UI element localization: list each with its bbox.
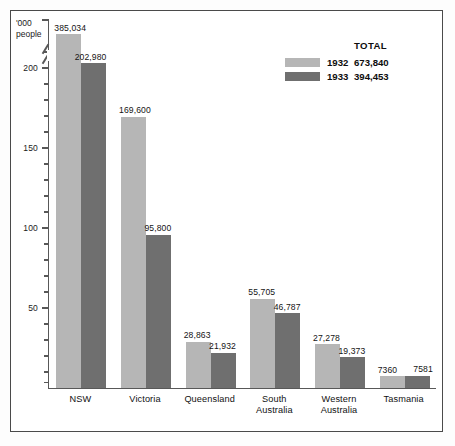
bar-1932-south-australia (250, 299, 275, 388)
legend-year-1933: 1933 (327, 71, 348, 82)
bar-1933-nsw (81, 63, 106, 388)
axis-break-gap (47, 50, 51, 61)
y-tick-major-100 (42, 227, 49, 228)
legend-total-1932: 673,840 (354, 57, 389, 68)
bar-value-label-1933-victoria: 95,800 (144, 223, 171, 233)
category-label-line: Queensland (177, 394, 242, 405)
y-tick-minor-110 (44, 211, 49, 212)
bar-1933-western-australia (340, 357, 365, 388)
y-tick-minor-160 (44, 131, 49, 132)
y-tick-minor-130 (44, 179, 49, 180)
bar-value-label-1932-queensland: 28,863 (184, 330, 211, 340)
legend-swatch-1933 (285, 72, 320, 81)
category-label-south-australia: SouthAustralia (242, 394, 307, 415)
legend-swatch-1932 (285, 58, 320, 67)
x-axis-line (48, 388, 436, 389)
bar-1933-south-australia (275, 313, 300, 388)
y-tick-minor-base (44, 382, 49, 383)
bar-1932-western-australia (315, 344, 340, 388)
y-tick-major-150 (42, 147, 49, 148)
category-label-line: Australia (307, 405, 372, 416)
y-tick-minor-80 (44, 259, 49, 260)
y-tick-minor-10 (44, 371, 49, 372)
bar-value-label-1932-victoria: 169,600 (119, 105, 151, 115)
y-tick-minor-190 (44, 83, 49, 84)
y-tick-minor-30 (44, 339, 49, 340)
category-label-line: South (242, 394, 307, 405)
y-tick-label-150: 150 (10, 143, 38, 153)
y-tick-minor-70 (44, 275, 49, 276)
category-label-tasmania: Tasmania (371, 394, 436, 405)
y-axis-title-line1: '000 (16, 18, 42, 29)
y-axis-title: '000 people (16, 18, 42, 39)
category-label-line: Tasmania (371, 394, 436, 405)
y-tick-minor-170 (44, 115, 49, 116)
bar-1932-victoria (121, 117, 146, 388)
category-label-line: Western (307, 394, 372, 405)
category-label-queensland: Queensland (177, 394, 242, 405)
legend-total-header: TOTAL (354, 40, 387, 51)
category-label-western-australia: WesternAustralia (307, 394, 372, 415)
y-tick-label-50: 50 (10, 303, 38, 313)
category-label-line: Victoria (113, 394, 178, 405)
bar-value-label-1933-nsw: 202,980 (75, 52, 107, 62)
category-label-nsw: NSW (48, 394, 113, 405)
bar-1933-victoria (146, 235, 171, 388)
category-label-victoria: Victoria (113, 394, 178, 405)
y-axis-title-line2: people (16, 29, 42, 40)
y-tick-minor-140 (44, 163, 49, 164)
category-label-line: Australia (242, 405, 307, 416)
y-tick-label-200: 200 (10, 63, 38, 73)
y-tick-major-50 (42, 307, 49, 308)
bar-value-label-1932-nsw: 385,034 (54, 23, 86, 33)
bar-value-label-1932-western-australia: 27,278 (313, 333, 340, 343)
y-tick-label-100: 100 (10, 223, 38, 233)
y-tick-minor-120 (44, 195, 49, 196)
legend-total-1933: 394,453 (354, 71, 389, 82)
legend-year-1932: 1932 (327, 57, 348, 68)
bar-value-label-1933-tasmania: 7581 (413, 364, 433, 374)
bar-value-label-1932-tasmania: 7360 (378, 365, 398, 375)
bar-1932-tasmania (380, 376, 405, 388)
bar-value-label-1933-western-australia: 19,373 (338, 346, 365, 356)
y-tick-top-cap (42, 19, 49, 20)
bar-1933-tasmania (405, 376, 430, 388)
bar-value-label-1932-south-australia: 55,705 (248, 287, 275, 297)
y-tick-major-200 (42, 67, 49, 68)
bar-1932-queensland (186, 342, 211, 388)
y-tick-minor-20 (44, 355, 49, 356)
bar-1933-queensland (211, 353, 236, 388)
y-tick-minor-90 (44, 243, 49, 244)
bar-1932-nsw (56, 34, 81, 388)
y-tick-minor-60 (44, 291, 49, 292)
bar-value-label-1933-queensland: 21,932 (209, 341, 236, 351)
y-tick-minor-40 (44, 323, 49, 324)
category-label-line: NSW (48, 394, 113, 405)
y-tick-minor-180 (44, 99, 49, 100)
y-axis-line (48, 20, 49, 389)
chart-figure: '000 people 50100150200 385,034202,98016… (0, 0, 455, 446)
bar-value-label-1933-south-australia: 46,787 (274, 302, 301, 312)
